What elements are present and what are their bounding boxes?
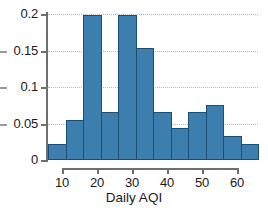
y-tick-label: 0 <box>0 152 38 167</box>
y-tick-mark <box>41 124 47 126</box>
histogram-bar <box>223 136 242 160</box>
histogram-bar <box>118 15 137 160</box>
axis-edge-stub <box>0 124 7 126</box>
histogram-bar <box>83 15 102 160</box>
y-tick-mark <box>41 51 47 53</box>
y-tick-mark <box>41 14 47 16</box>
histogram-bar <box>241 144 260 160</box>
x-tick-label: 50 <box>182 175 222 190</box>
x-tick-mark <box>237 168 239 174</box>
x-tick-label: 40 <box>147 175 187 190</box>
histogram-bar <box>153 112 172 160</box>
x-tick-mark <box>132 168 134 174</box>
histogram-bar <box>66 120 85 160</box>
x-axis-title: Daily AQI <box>0 190 268 205</box>
histogram-figure: 00.050.10.150.2 102030405060 Daily AQI <box>0 0 268 211</box>
y-tick-mark <box>41 87 47 89</box>
x-tick-mark <box>202 168 204 174</box>
x-tick-label: 30 <box>112 175 152 190</box>
x-tick-label: 10 <box>42 175 82 190</box>
axis-edge-stub <box>0 87 7 89</box>
histogram-bar <box>188 112 207 160</box>
x-tick-mark <box>167 168 169 174</box>
x-tick-label: 20 <box>77 175 117 190</box>
gridline-y <box>48 14 258 15</box>
x-tick-label: 60 <box>217 175 257 190</box>
y-tick-mark <box>41 160 47 162</box>
plot-area <box>48 14 258 160</box>
y-tick-label: 0.2 <box>0 6 38 21</box>
axis-edge-stub <box>0 51 7 53</box>
histogram-bar <box>206 105 225 160</box>
histogram-bar <box>48 144 67 160</box>
histogram-bar <box>136 48 155 160</box>
x-tick-mark <box>97 168 99 174</box>
x-tick-mark <box>62 168 64 174</box>
histogram-bar <box>101 112 120 160</box>
x-axis-line <box>62 168 237 170</box>
histogram-bar <box>171 128 190 160</box>
